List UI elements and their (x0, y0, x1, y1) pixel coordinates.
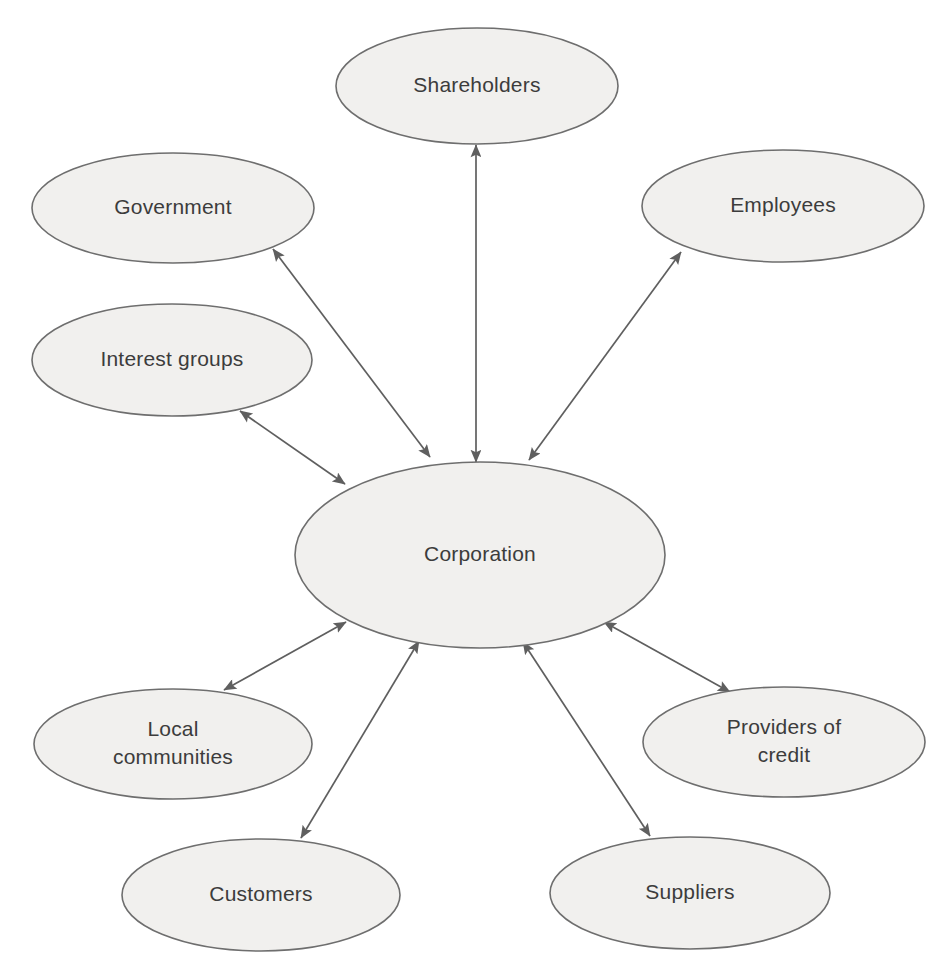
node-label-line: Suppliers (645, 880, 734, 903)
node-label-line: Corporation (424, 542, 536, 565)
diagram-svg: CorporationShareholdersGovernmentEmploye… (0, 0, 947, 979)
node-label-corporation: Corporation (424, 542, 536, 565)
node-suppliers[interactable]: Suppliers (550, 837, 830, 949)
node-interest-groups[interactable]: Interest groups (32, 304, 312, 416)
edge-suppliers-corporation (523, 642, 650, 836)
node-employees[interactable]: Employees (642, 150, 924, 262)
node-label-line: communities (113, 744, 233, 767)
node-customers[interactable]: Customers (122, 839, 400, 951)
node-label-line: credit (758, 742, 811, 765)
node-label-employees: Employees (730, 193, 836, 216)
node-label-line: Employees (730, 193, 836, 216)
node-label-line: Customers (209, 882, 312, 905)
edge-providers-of-credit-corporation (604, 622, 730, 692)
edge-interest-groups-corporation (240, 411, 345, 484)
nodes-layer: CorporationShareholdersGovernmentEmploye… (32, 28, 925, 951)
node-label-interest-groups: Interest groups (100, 347, 243, 370)
node-label-line: Shareholders (413, 73, 540, 96)
node-corporation[interactable]: Corporation (295, 462, 665, 648)
node-label-customers: Customers (209, 882, 312, 905)
edge-customers-corporation (301, 641, 419, 838)
edge-employees-corporation (529, 252, 681, 460)
node-providers-of-credit[interactable]: Providers ofcredit (643, 687, 925, 797)
node-local-communities[interactable]: Localcommunities (34, 689, 312, 799)
node-label-suppliers: Suppliers (645, 880, 734, 903)
node-label-line: Local (147, 717, 198, 740)
stakeholder-diagram-canvas: CorporationShareholdersGovernmentEmploye… (0, 0, 947, 979)
node-label-line: Providers of (727, 715, 841, 738)
node-label-line: Government (114, 195, 232, 218)
node-label-government: Government (114, 195, 232, 218)
node-label-shareholders: Shareholders (413, 73, 540, 96)
node-government[interactable]: Government (32, 153, 314, 263)
edge-local-communities-corporation (224, 622, 346, 690)
node-shareholders[interactable]: Shareholders (336, 28, 618, 144)
node-label-line: Interest groups (100, 347, 243, 370)
